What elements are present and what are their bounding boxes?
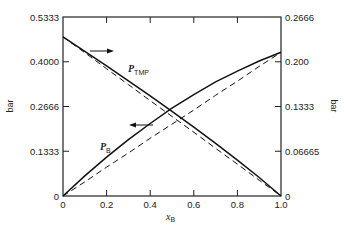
vapor-pressure-chart: 00.20.40.60.81.000.13330.26660.40000.533… [0, 0, 344, 233]
x-tick-label: 0.8 [231, 199, 244, 210]
y-tick-label-left: 0.1333 [30, 146, 59, 157]
curve-p_b-ideal [63, 52, 281, 196]
chart-svg: 00.20.40.60.81.000.13330.26660.40000.533… [0, 0, 344, 233]
y-axis-label-left: bar [5, 99, 15, 112]
x-tick-label: 0.2 [100, 199, 113, 210]
y-tick-label-right: 0.200 [285, 56, 309, 67]
x-tick-label: 0.6 [187, 199, 200, 210]
y-tick-label-left: 0.5333 [30, 12, 59, 23]
ptmp-label: PTMP [128, 63, 149, 76]
y-tick-label-left: 0.2666 [30, 101, 59, 112]
x-tick-label: 0.4 [144, 199, 157, 210]
y-axis-label-right: bar [329, 99, 339, 112]
y-tick-label-right: 0.1333 [285, 101, 314, 112]
x-tick-label: 0 [60, 199, 65, 210]
pb-label: PB [100, 141, 111, 154]
y-tick-label-right: 0.06665 [285, 146, 319, 157]
curve-p_tmp-ideal [63, 37, 281, 196]
axis-ticks: 00.20.40.60.81.000.13330.26660.40000.533… [30, 12, 319, 211]
y-tick-label-left: 0.4000 [30, 56, 59, 67]
y-tick-label-left: 0 [54, 191, 59, 202]
y-tick-label-right: 0 [285, 191, 290, 202]
data-curves [63, 37, 281, 196]
x-axis-label: xB [165, 211, 175, 223]
y-tick-label-right: 0.2666 [285, 12, 314, 23]
